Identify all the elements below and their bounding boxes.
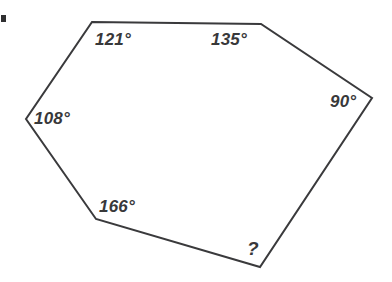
angle-label-bottom-left: 166° [99, 198, 135, 215]
angle-label-unknown: ? [247, 239, 259, 258]
angle-label-right: 90° [330, 93, 356, 110]
angle-label-top-right: 135° [211, 31, 247, 48]
geometry-figure: 121° 135° 90° ? 166° 108° [0, 0, 392, 282]
angle-label-left: 108° [34, 110, 70, 127]
hexagon-svg [0, 0, 392, 282]
hexagon-outline [26, 22, 372, 267]
angle-label-top-left: 121° [95, 31, 131, 48]
scan-artifact-mark [1, 15, 6, 22]
